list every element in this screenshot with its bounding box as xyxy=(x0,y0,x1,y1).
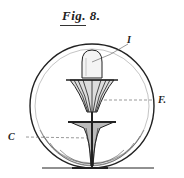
label-f: F. xyxy=(158,94,166,105)
lower-collar xyxy=(68,112,116,168)
cap-element xyxy=(82,50,102,78)
label-i: I xyxy=(127,34,131,45)
label-c: C xyxy=(8,131,15,142)
patent-drawing xyxy=(0,0,184,178)
upper-funnel xyxy=(66,80,118,112)
